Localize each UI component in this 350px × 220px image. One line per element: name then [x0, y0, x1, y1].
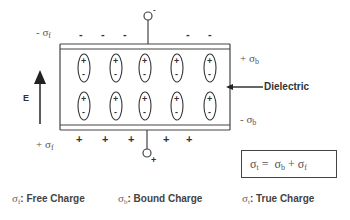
field-arrow-icon [34, 70, 46, 124]
bottom-free-charge-label: + σf [36, 138, 54, 152]
bound-charge-top-label: + σb [240, 52, 259, 66]
dipole-minus: - [143, 108, 146, 117]
top-terminal [144, 12, 152, 44]
dipole-minus: - [208, 108, 211, 117]
dipole-plus: + [174, 57, 179, 66]
legend-item-true-charge: σt: True Charge [242, 192, 314, 206]
top-plate [60, 44, 230, 49]
dipole-plus: + [113, 95, 118, 104]
dielectric-pointer-arrow-icon [226, 84, 263, 90]
bottom-free-charge: + [102, 134, 108, 145]
dipole-minus: - [175, 70, 178, 79]
dipole-minus: - [143, 70, 146, 79]
legend-item-free-charge: σf: Free Charge [12, 192, 85, 206]
dipole-minus: - [208, 70, 211, 79]
dipole-minus: - [114, 70, 117, 79]
top-free-charge: - [101, 29, 105, 40]
dipole-plus: + [142, 57, 147, 66]
dipole-minus: - [114, 108, 117, 117]
top-free-charge: - [79, 29, 83, 40]
bottom-free-charge: + [163, 134, 169, 145]
dipole-minus: - [82, 108, 85, 117]
dipole-plus: + [207, 95, 212, 104]
dielectric-label: Dielectric [264, 81, 309, 92]
top-free-charge-label: - σf [36, 26, 51, 40]
bottom-free-charge: + [76, 134, 82, 145]
dipole-plus: + [113, 57, 118, 66]
top-terminal-sign: - [153, 6, 156, 14]
top-free-charge: - [186, 29, 190, 40]
dipole-plus: + [81, 95, 86, 104]
legend-item-bound-charge: σb: Bound Charge [118, 192, 202, 206]
bottom-free-charge: + [186, 134, 192, 145]
dipole-minus: - [175, 108, 178, 117]
bottom-plate [60, 125, 230, 130]
bottom-terminal-sign: + [151, 156, 156, 165]
dipole-minus: - [82, 70, 85, 79]
bound-charge-bottom-label: - σb [240, 113, 256, 127]
bottom-free-charge: + [128, 134, 134, 145]
dipole-plus: + [142, 95, 147, 104]
top-free-charge: - [123, 29, 127, 40]
equation-box: σt = σb + σf [241, 150, 337, 178]
dipole-plus: + [81, 57, 86, 66]
field-label: E [23, 93, 29, 103]
bottom-terminal [143, 130, 151, 157]
dipole-plus: + [207, 57, 212, 66]
dipole-plus: + [174, 95, 179, 104]
top-free-charge: - [208, 29, 212, 40]
